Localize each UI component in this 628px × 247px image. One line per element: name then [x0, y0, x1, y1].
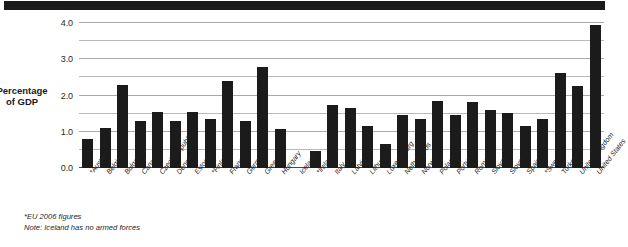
y-axis: Percentage of GDP 0.01.02.03.04.0 — [0, 23, 77, 168]
bar-slot[interactable] — [114, 23, 132, 168]
bar-series — [79, 23, 604, 168]
footnote-iceland: Note: Iceland has no armed forces — [24, 222, 364, 233]
bar-slot[interactable] — [499, 23, 517, 168]
x-axis-labels: *AustriaBelgiumBulgariaCanadaCzech Repub… — [79, 170, 604, 212]
bar[interactable] — [345, 108, 356, 168]
bar-slot[interactable] — [534, 23, 552, 168]
y-axis-title-line2: of GDP — [0, 96, 52, 107]
bar-slot[interactable] — [97, 23, 115, 168]
bar-slot[interactable] — [359, 23, 377, 168]
bar-slot[interactable] — [79, 23, 97, 168]
y-tick-label: 3.0 — [61, 55, 73, 64]
y-axis-title: Percentage of GDP — [0, 85, 52, 107]
bar-slot[interactable] — [219, 23, 237, 168]
bar-slot[interactable] — [202, 23, 220, 168]
y-tick-label: 0.0 — [61, 164, 73, 173]
bar-slot[interactable] — [149, 23, 167, 168]
bar-slot[interactable] — [552, 23, 570, 168]
bar-slot[interactable] — [254, 23, 272, 168]
bar-slot[interactable] — [569, 23, 587, 168]
footnote-eu-figures: *EU 2006 figures — [24, 211, 364, 222]
bar-slot[interactable] — [482, 23, 500, 168]
footnotes: *EU 2006 figures Note: Iceland has no ar… — [24, 211, 364, 233]
y-tick-label: 1.0 — [61, 127, 73, 136]
bar-slot[interactable] — [464, 23, 482, 168]
bar-slot[interactable] — [342, 23, 360, 168]
bar-slot[interactable] — [307, 23, 325, 168]
bar-slot[interactable] — [447, 23, 465, 168]
bar-slot[interactable] — [289, 23, 307, 168]
plot-area — [79, 23, 604, 168]
bar-slot[interactable] — [272, 23, 290, 168]
y-tick-label: 2.0 — [61, 91, 73, 100]
bar-slot[interactable] — [132, 23, 150, 168]
bar-slot[interactable] — [237, 23, 255, 168]
title-banner — [4, 1, 605, 10]
y-axis-title-line1: Percentage — [0, 85, 52, 96]
bar-slot[interactable] — [377, 23, 395, 168]
bar-slot[interactable] — [324, 23, 342, 168]
y-tick-label: 4.0 — [61, 19, 73, 28]
bar-slot[interactable] — [517, 23, 535, 168]
